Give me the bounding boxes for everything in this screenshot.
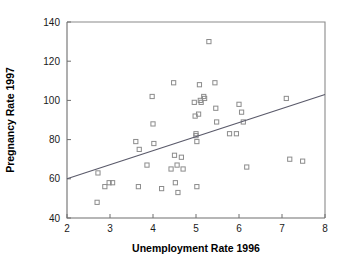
x-tick-label: 7 (279, 223, 285, 234)
x-tick-label: 2 (64, 223, 70, 234)
chart-canvas: 2345678 406080100120140 Unemployment Rat… (0, 0, 340, 268)
y-tick-label: 100 (43, 95, 60, 106)
y-tick-label: 40 (49, 213, 61, 224)
y-axis-title: Pregnancy Rate 1997 (4, 67, 16, 173)
x-tick-label: 6 (236, 223, 242, 234)
x-tick-label: 5 (193, 223, 199, 234)
y-tick-label: 60 (49, 173, 61, 184)
x-tick-label: 3 (107, 223, 113, 234)
y-tick-label: 120 (43, 56, 60, 67)
x-axis-title: Unemployment Rate 1996 (132, 242, 260, 254)
y-tick-label: 80 (49, 134, 61, 145)
scatter-plot-figure: 2345678 406080100120140 Unemployment Rat… (0, 0, 340, 268)
x-tick-label: 8 (322, 223, 328, 234)
y-tick-label: 140 (43, 17, 60, 28)
x-tick-label: 4 (150, 223, 156, 234)
